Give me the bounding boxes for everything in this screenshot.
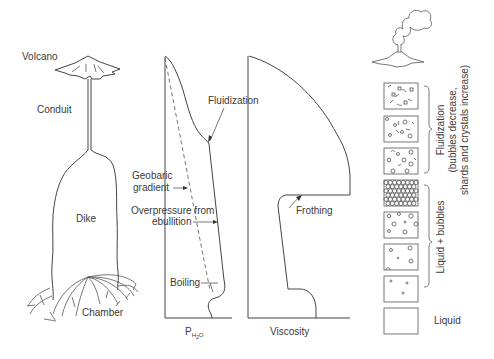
- pressure-axis-label: PH2O: [185, 326, 204, 340]
- foam-bubble: [405, 189, 409, 193]
- foam-bubble: [403, 193, 407, 197]
- foam-bubble: [384, 197, 388, 201]
- fluidization-brace: [424, 86, 432, 173]
- cone-hatching: [72, 64, 104, 73]
- chamber-label: Chamber: [82, 307, 124, 318]
- dike-outline: [52, 150, 118, 300]
- foam-bubble: [412, 185, 416, 189]
- foam-bubble: [390, 201, 394, 205]
- foam-bubble: [386, 185, 390, 189]
- foam-bubble: [397, 189, 401, 193]
- fluidization-annotation: Fluidization: [208, 95, 259, 106]
- foam-bubble: [401, 189, 405, 193]
- foam-bubble: [397, 180, 401, 184]
- volcano-label: Volcano: [22, 51, 58, 62]
- foam-bubble: [414, 189, 418, 193]
- fluidization-arrow: [210, 108, 224, 141]
- foam-bubble: [412, 193, 416, 197]
- stage-box-liquid: [384, 308, 418, 334]
- stage-box-some-bubbles: [384, 244, 418, 270]
- stage-box-bubbles-shards: [384, 148, 418, 174]
- foam-bubble: [397, 197, 401, 201]
- viscosity-axis-label: Viscosity: [270, 326, 309, 337]
- viscosity-curve: [249, 56, 350, 318]
- frothing-annotation: Frothing: [296, 205, 333, 216]
- foam-bubble: [407, 185, 411, 189]
- foam-bubble: [414, 197, 418, 201]
- foam-bubble: [390, 185, 394, 189]
- fluidization-arrowhead: [208, 135, 212, 143]
- liquid-bubbles-stage-label: Liquid + bubbles: [435, 200, 446, 273]
- foam-bubble: [399, 201, 403, 205]
- foam-bubble: [393, 197, 397, 201]
- foam-bubble: [403, 201, 407, 205]
- foam-bubble: [399, 185, 403, 189]
- viscosity-axes: [248, 56, 350, 318]
- stage-box-shards-bubbles: [384, 116, 418, 142]
- foam-bubble: [405, 180, 409, 184]
- stage-box-foam: [384, 180, 418, 206]
- foam-bubble: [410, 197, 414, 201]
- foam-bubble: [386, 201, 390, 205]
- overpressure-annotation-line2: ebullition: [152, 216, 191, 227]
- foam-bubble: [393, 189, 397, 193]
- volcanic-eruption-diagram: Volcano Conduit Dike Chamber: [0, 0, 494, 359]
- foam-bubble: [388, 197, 392, 201]
- dike-label: Dike: [76, 213, 96, 224]
- geobaric-arrowhead: [183, 186, 188, 190]
- liquid-stage-label: Liquid: [434, 315, 461, 326]
- foam-bubble: [393, 180, 397, 184]
- foam-bubble: [401, 180, 405, 184]
- foam-bubble: [388, 180, 392, 184]
- fluidization-stage-detail-1: (bubbles decrease,: [447, 87, 458, 172]
- foam-bubble: [401, 197, 405, 201]
- foam-bubble: [384, 180, 388, 184]
- stage-box-few-bubbles: [384, 276, 418, 302]
- foam-bubble: [407, 193, 411, 197]
- foam-bubble: [410, 180, 414, 184]
- foam-bubble: [410, 189, 414, 193]
- fluidization-stage-label: Fluidization: [435, 105, 446, 156]
- foam-bubble: [384, 189, 388, 193]
- viscosity-panel: Frothing Viscosity: [248, 56, 350, 337]
- foam-bubbles: [384, 180, 418, 205]
- fluidization-stage-detail-2: shards and crystals increase): [459, 65, 470, 195]
- foam-bubble: [386, 193, 390, 197]
- foam-bubble: [395, 201, 399, 205]
- foam-bubble: [405, 197, 409, 201]
- stage-box-many-bubbles: [384, 212, 418, 238]
- liquid-bubbles-brace: [424, 185, 432, 287]
- overpressure-annotation-line1: Overpressure from: [131, 205, 214, 216]
- boiling-annotation: Boiling: [170, 277, 200, 288]
- foam-bubble: [395, 185, 399, 189]
- foam-bubble: [390, 193, 394, 197]
- geobaric-annotation-line1: Geobaric: [132, 170, 173, 181]
- geobaric-annotation-line2: gradient: [133, 182, 169, 193]
- stage-box-shards-crystals: [384, 83, 418, 109]
- volcano-cone: [55, 56, 120, 79]
- foam-bubble: [399, 193, 403, 197]
- frothing-arrowhead: [296, 195, 302, 201]
- erupting-volcano-icon: [372, 10, 432, 67]
- foam-bubble: [388, 189, 392, 193]
- foam-bubble: [412, 201, 416, 205]
- foam-bubble: [407, 201, 411, 205]
- eruption-stages: Fluidization (bubbles decrease, shards a…: [372, 10, 470, 334]
- foam-bubble: [395, 193, 399, 197]
- foam-bubble: [403, 185, 407, 189]
- pressure-panel: Fluidization Geobaric gradient Overpress…: [131, 56, 259, 340]
- foam-bubble: [414, 180, 418, 184]
- volcano-sketch: Volcano Conduit Dike Chamber: [22, 51, 138, 321]
- conduit-label: Conduit: [37, 104, 72, 115]
